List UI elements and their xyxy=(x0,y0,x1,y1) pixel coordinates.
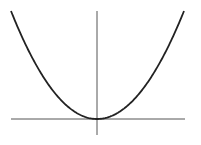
parabola-diagram xyxy=(0,0,201,145)
